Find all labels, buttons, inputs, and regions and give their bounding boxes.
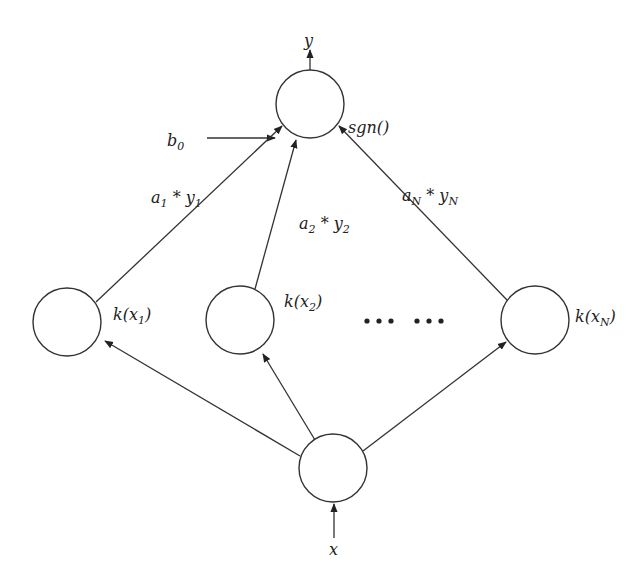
edge-input-kN xyxy=(363,342,506,451)
weight-label-1: a1 * y1 xyxy=(151,188,202,210)
output-node xyxy=(276,70,344,138)
edge-k1-output xyxy=(96,126,282,302)
kernel-node-2 xyxy=(206,286,274,354)
edge-input-k1 xyxy=(105,341,300,456)
kernel-label-1: k(x1) xyxy=(113,305,151,327)
bias-label: b0 xyxy=(167,131,184,153)
kernel-label-N: k(xN) xyxy=(575,307,616,329)
svm-network-diagram: y b0 sgn() a1 * y1 a2 * y2 aN * yN k(x1)… xyxy=(0,0,643,579)
kernel-label-2: k(x2) xyxy=(284,292,322,314)
sgn-label: sgn() xyxy=(348,118,389,137)
edge-k2-output xyxy=(255,140,296,289)
edge-kN-output xyxy=(339,126,507,300)
weight-label-N: aN * yN xyxy=(402,186,458,208)
input-node xyxy=(299,434,367,502)
kernel-node-1 xyxy=(33,288,101,356)
output-label: y xyxy=(303,31,314,50)
input-label: x xyxy=(329,540,338,559)
weight-label-2: a2 * y2 xyxy=(299,214,350,236)
ellipsis xyxy=(364,318,443,323)
edge-input-k2 xyxy=(263,354,315,440)
kernel-node-N xyxy=(501,286,569,354)
